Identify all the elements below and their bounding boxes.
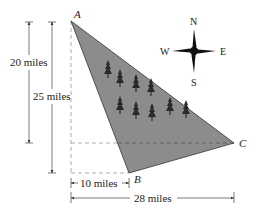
- forest-triangle-diagram: A B C 20 miles 25 miles 10 miles 28 mile…: [0, 0, 257, 213]
- dimension-label-28-miles: 28 miles: [134, 192, 172, 204]
- compass-label-south: S: [191, 77, 197, 88]
- dimension-20-miles: [25, 22, 33, 143]
- vertex-label-c: C: [239, 137, 247, 149]
- compass-rose-icon: [172, 29, 216, 73]
- compass-label-west: W: [160, 46, 170, 57]
- dimension-label-25-miles: 25 miles: [33, 90, 71, 102]
- compass-label-north: N: [190, 16, 197, 27]
- vertex-label-b: B: [134, 173, 141, 185]
- dimension-label-10-miles: 10 miles: [80, 177, 118, 189]
- land-triangle: [71, 21, 234, 173]
- vertex-label-a: A: [73, 8, 81, 20]
- compass-label-east: E: [220, 46, 226, 57]
- dimension-label-20-miles: 20 miles: [10, 56, 48, 68]
